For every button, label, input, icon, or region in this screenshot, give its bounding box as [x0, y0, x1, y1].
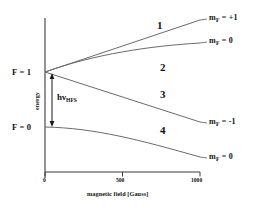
hyperfine-symbol: hν [57, 92, 66, 102]
y-axis-title: energy [34, 92, 40, 110]
x-axis-title: magnetic field [Gauss] [87, 191, 148, 197]
leader-line-mf-plus-one [200, 19, 207, 20]
mf-label-zero-upper: mF = 0 [209, 37, 233, 46]
curve-2-mf-zero-upper [45, 43, 200, 72]
leader-line-mf-zero-upper [200, 42, 207, 43]
curve-number-1: 1 [157, 20, 163, 31]
mf-symbol: m [209, 152, 216, 161]
leader-line-mf-minus-one [200, 122, 207, 123]
state-label-f1: F = 1 [12, 68, 31, 77]
curve-number-4: 4 [160, 125, 166, 136]
hyperfine-arrowhead-down [50, 121, 55, 127]
leader-line-mf-zero-lower [200, 157, 207, 158]
mf-label-plus-one: mF = +1 [209, 14, 238, 23]
curve-number-2: 2 [160, 62, 166, 73]
state-label-f0: F = 0 [12, 123, 31, 132]
mf-value: = 0 [222, 152, 233, 161]
x-tick-label-0: 0 [43, 178, 46, 184]
mf-symbol: m [209, 13, 216, 22]
mf-value: = 0 [222, 36, 233, 45]
breit-rabi-figure: F = 1 F = 0 energy hνHFS 1 2 3 4 mF = +1… [0, 0, 262, 207]
mf-value: = -1 [222, 117, 236, 126]
mf-subscript: F [216, 121, 220, 127]
mf-subscript: F [216, 17, 220, 23]
curve-number-3: 3 [160, 89, 166, 100]
mf-subscript: F [216, 40, 220, 46]
mf-value: = +1 [222, 13, 238, 22]
mf-symbol: m [209, 36, 216, 45]
curve-4-mf-zero-lower [45, 127, 200, 157]
mf-subscript: F [216, 156, 220, 162]
mf-symbol: m [209, 117, 216, 126]
hyperfine-splitting-label: hνHFS [57, 93, 77, 103]
mf-label-minus-one: mF = -1 [209, 118, 236, 127]
hyperfine-subscript: HFS [66, 97, 77, 103]
x-tick-label-1000: 1000 [191, 178, 202, 184]
mf-label-zero-lower: mF = 0 [209, 153, 233, 162]
x-tick-label-500: 500 [116, 178, 124, 184]
